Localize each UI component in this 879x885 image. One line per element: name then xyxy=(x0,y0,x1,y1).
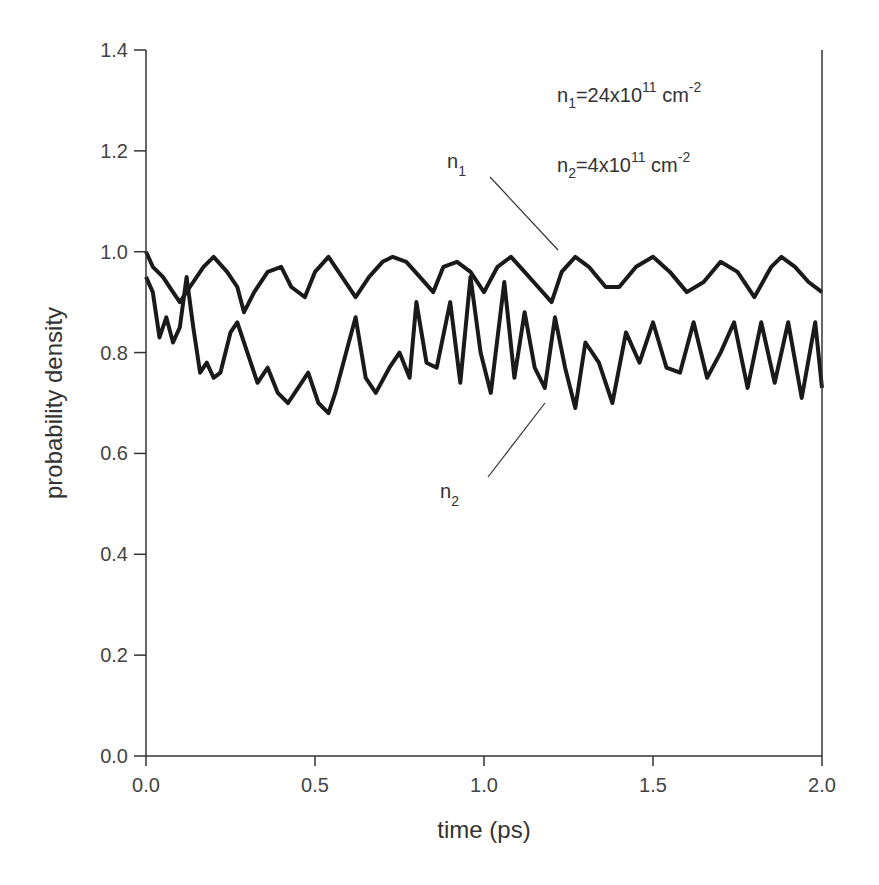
x-axis-title: time (ps) xyxy=(437,816,530,843)
x-tick-label: 1.0 xyxy=(470,774,498,796)
svg-text:n2: n2 xyxy=(440,480,459,509)
x-tick-label: 2.0 xyxy=(808,774,836,796)
y-axis-title: probability density xyxy=(40,307,67,499)
y-tick-label: 1.0 xyxy=(100,241,128,263)
chart-svg: 0.00.20.40.60.81.01.21.40.00.51.01.52.0 … xyxy=(0,0,879,885)
svg-text:n1: n1 xyxy=(447,150,466,179)
y-tick-label: 1.4 xyxy=(100,39,128,61)
y-tick-label: 0.0 xyxy=(100,745,128,767)
x-tick-label: 0.5 xyxy=(301,774,329,796)
n2-label: n2 xyxy=(440,403,545,509)
density-annotation-n2: n2=4x1011 cm-2 xyxy=(557,149,690,181)
plot-area xyxy=(146,252,822,413)
y-tick-label: 0.8 xyxy=(100,342,128,364)
n1-label: n1 xyxy=(447,150,558,250)
series-line-n2 xyxy=(146,277,822,413)
axes xyxy=(146,50,822,756)
y-tick-label: 0.6 xyxy=(100,442,128,464)
svg-text:n2=4x1011 cm-2: n2=4x1011 cm-2 xyxy=(557,149,690,181)
y-tick-label: 1.2 xyxy=(100,140,128,162)
x-tick-label: 0.0 xyxy=(132,774,160,796)
y-tick-label: 0.4 xyxy=(100,543,128,565)
x-tick-label: 1.5 xyxy=(639,774,667,796)
ticks: 0.00.20.40.60.81.01.21.40.00.51.01.52.0 xyxy=(100,39,836,796)
svg-text:n1=24x1011 cm-2: n1=24x1011 cm-2 xyxy=(557,79,702,111)
density-annotation-n1: n1=24x1011 cm-2 xyxy=(557,79,702,111)
series-line-n1 xyxy=(146,252,822,313)
y-tick-label: 0.2 xyxy=(100,644,128,666)
